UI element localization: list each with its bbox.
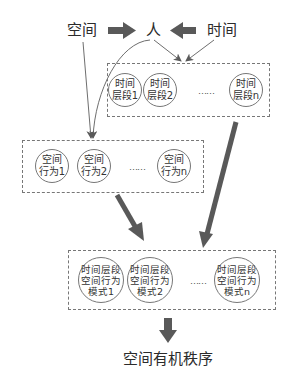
person-label: 人 — [146, 23, 161, 38]
time-label: 时间 — [207, 23, 237, 38]
node-line: 时间 — [115, 78, 135, 90]
pattern-node-1: 时间层段 空间行为 模式1 — [78, 257, 124, 303]
pattern-to-result-arrow — [159, 318, 177, 343]
node-line: 空间 — [164, 154, 184, 166]
node-line: 行为n — [161, 166, 187, 178]
pattern-node-n: 时间层段 空间行为 模式n — [214, 257, 260, 303]
result-label: 空间有机秩序 — [123, 347, 213, 368]
node-line: 模式2 — [137, 286, 163, 297]
pattern-ellipsis: …… — [190, 276, 206, 286]
node-line: 空间 — [84, 154, 104, 166]
node-line: 层段n — [233, 90, 259, 102]
node-line: 层段1 — [112, 90, 138, 102]
node-line: 时间层段 — [217, 264, 257, 275]
time-period-ellipsis: …… — [198, 86, 214, 96]
node-line: 时间层段 — [130, 264, 170, 275]
space-label: 空间 — [67, 23, 97, 38]
time-to-person-arrow — [170, 22, 196, 39]
spatial-behavior-node-1: 空间 行为1 — [35, 149, 69, 183]
person-to-time-box-line — [154, 40, 181, 61]
time-period-node-n: 时间 层段n — [229, 73, 263, 107]
node-line: 时间层段 — [81, 264, 121, 275]
behavior-to-pattern-arrow — [117, 195, 144, 241]
spatial-behavior-node-2: 空间 行为2 — [77, 149, 111, 183]
node-line: 空间 — [42, 154, 62, 166]
timeperiod-to-pattern-arrow — [199, 122, 236, 248]
time-period-node-1: 时间 层段1 — [108, 73, 142, 107]
spatial-behavior-node-n: 空间 行为n — [157, 149, 191, 183]
node-line: 层段2 — [147, 90, 173, 102]
node-line: 模式n — [224, 286, 250, 297]
pattern-node-2: 时间层段 空间行为 模式2 — [127, 257, 173, 303]
node-line: 模式1 — [88, 286, 114, 297]
node-line: 时间 — [150, 78, 170, 90]
time-to-time-box-line — [186, 40, 214, 61]
space-to-behavior-line — [83, 42, 91, 138]
node-line: 行为1 — [39, 166, 65, 178]
connector-layer — [0, 0, 295, 389]
node-line: 空间行为 — [81, 275, 121, 286]
space-to-person-arrow — [108, 22, 136, 39]
spatial-behavior-ellipsis: …… — [129, 162, 145, 172]
node-line: 空间行为 — [130, 275, 170, 286]
time-period-node-2: 时间 层段2 — [143, 73, 177, 107]
node-line: 行为2 — [81, 166, 107, 178]
node-line: 时间 — [236, 78, 256, 90]
node-line: 空间行为 — [217, 275, 257, 286]
